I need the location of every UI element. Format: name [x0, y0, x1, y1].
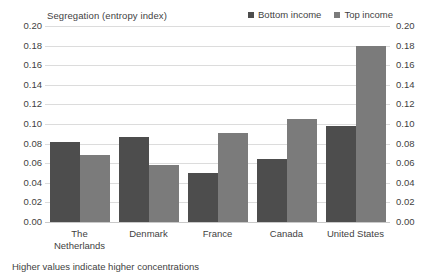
- bar-bottom-income[interactable]: [326, 126, 356, 222]
- x-axis-category-label: France: [185, 228, 251, 251]
- y-axis-tick-label: 0.06: [396, 158, 415, 168]
- bar-bottom-income[interactable]: [188, 173, 218, 222]
- y-axis-tick-label: 0.18: [24, 41, 43, 51]
- bar-top-income[interactable]: [149, 165, 179, 222]
- y-axis-tick-label: 0.12: [396, 99, 415, 109]
- bar-bottom-income[interactable]: [119, 137, 149, 222]
- bar-top-income[interactable]: [80, 155, 110, 222]
- y-axis-tick-label: 0.08: [24, 139, 43, 149]
- y-axis-tick-label: 0.20: [396, 21, 415, 31]
- x-axis-category-label: Canada: [254, 228, 320, 251]
- legend-item-bottom-income[interactable]: Bottom income: [248, 9, 321, 20]
- y-axis-tick-label: 0.16: [24, 60, 43, 70]
- bar-group: [188, 26, 248, 222]
- bar-top-income[interactable]: [218, 133, 248, 222]
- x-axis-category-label: TheNetherlands: [47, 228, 113, 251]
- legend-label-bottom-income: Bottom income: [258, 9, 321, 20]
- chart-title: Segregation (entropy index): [47, 10, 167, 21]
- y-axis-tick-label: 0.16: [396, 60, 415, 70]
- bar-group: [50, 26, 110, 222]
- y-axis-tick-label: 0.12: [24, 99, 43, 109]
- x-axis-category-labels: TheNetherlandsDenmarkFranceCanadaUnited …: [45, 228, 390, 251]
- y-axis-tick-label: 0.14: [396, 80, 415, 90]
- legend-swatch-icon-bottom-income: [248, 12, 254, 18]
- y-axis-tick-label: 0.02: [24, 197, 43, 207]
- y-axis-tick-label: 0.08: [396, 139, 415, 149]
- legend-item-top-income[interactable]: Top income: [334, 9, 393, 20]
- bar-group: [119, 26, 179, 222]
- y-axis-tick-label: 0.14: [24, 80, 43, 90]
- bar-group: [257, 26, 317, 222]
- x-axis-category-label: United States: [323, 228, 389, 251]
- legend-swatch-icon-top-income: [334, 12, 340, 18]
- y-axis-tick-label: 0.20: [24, 21, 43, 31]
- bar-bottom-income[interactable]: [50, 142, 80, 222]
- y-axis-tick-label: 0.00: [24, 217, 43, 227]
- y-axis-tick-label: 0.00: [396, 217, 415, 227]
- y-axis-tick-label: 0.02: [396, 197, 415, 207]
- bar-group: [326, 26, 386, 222]
- segregation-bar-chart: Segregation (entropy index) Bottom incom…: [0, 0, 437, 280]
- chart-legend: Bottom income Top income: [248, 9, 393, 20]
- y-axis-tick-label: 0.04: [396, 178, 415, 188]
- bar-bottom-income[interactable]: [257, 159, 287, 222]
- plot-area: [45, 26, 390, 222]
- chart-footnote: Higher values indicate higher concentrat…: [12, 261, 199, 272]
- y-axis-tick-label: 0.10: [24, 119, 43, 129]
- legend-label-top-income: Top income: [344, 9, 393, 20]
- gridline: [45, 222, 390, 223]
- y-axis-tick-label: 0.10: [396, 119, 415, 129]
- y-axis-tick-label: 0.04: [24, 178, 43, 188]
- y-axis-tick-label: 0.06: [24, 158, 43, 168]
- bar-top-income[interactable]: [356, 46, 386, 222]
- bar-top-income[interactable]: [287, 119, 317, 222]
- bar-groups: [45, 26, 390, 222]
- x-axis-category-label: Denmark: [116, 228, 182, 251]
- y-axis-tick-label: 0.18: [396, 41, 415, 51]
